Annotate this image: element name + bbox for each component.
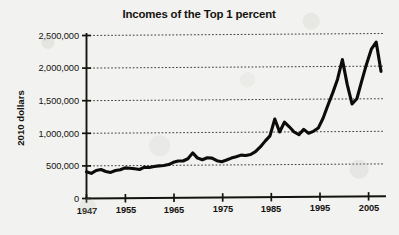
y-tick-label-1500000: 1,500,000 — [39, 96, 79, 106]
x-tick-label-2005: 2005 — [359, 203, 379, 213]
x-tick-labels: 1947 1955 1965 1975 1985 1995 2005 — [77, 203, 379, 216]
y-tick-label-2500000: 2,500,000 — [39, 31, 79, 41]
x-tick-label-1995: 1995 — [310, 203, 330, 213]
chart-title: Incomes of the Top 1 percent — [122, 8, 276, 20]
gridline-1500000 — [86, 99, 384, 101]
chart-figure: Incomes of the Top 1 percent 2010 dollar… — [0, 0, 399, 235]
gridline-500000 — [86, 164, 384, 166]
x-tick-label-1985: 1985 — [261, 204, 281, 214]
gridline-1000000 — [86, 131, 384, 133]
x-axis-line — [86, 196, 385, 198]
y-tick-label-1000000: 1,000,000 — [39, 129, 79, 139]
x-tick-label-1947: 1947 — [77, 206, 97, 216]
x-tick-label-1965: 1965 — [164, 205, 184, 215]
y-tick-label-2000000: 2,000,000 — [39, 63, 79, 73]
income-series-line — [87, 42, 382, 173]
income-line-chart: Incomes of the Top 1 percent 2010 dollar… — [0, 0, 399, 235]
y-tick-label-500000: 500,000 — [46, 161, 79, 171]
gridlines — [86, 34, 384, 166]
y-tick-labels: 2,500,000 2,000,000 1,500,000 1,000,000 … — [39, 31, 79, 204]
y-axis-title: 2010 dollars — [15, 90, 26, 145]
gridline-2500000 — [86, 34, 384, 36]
x-tick-label-1975: 1975 — [213, 204, 233, 214]
y-tick-label-0: 0 — [74, 194, 79, 204]
x-tick-label-1955: 1955 — [116, 205, 136, 215]
